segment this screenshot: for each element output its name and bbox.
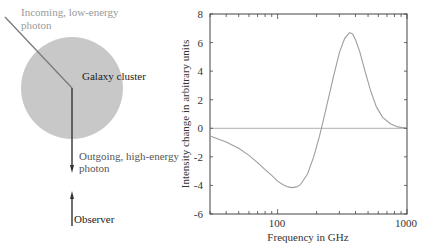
outgoing-arrowhead-icon: [70, 165, 74, 173]
x-tick-1000: 1000: [395, 217, 418, 229]
y-tick-neg6: -6: [194, 208, 204, 220]
sz-curve: [210, 33, 407, 188]
y-axis-title: Intensity change in arbitrary units: [179, 40, 191, 188]
y-tick-neg2: -2: [194, 151, 203, 163]
chart: 8 6 4 2 0 -2 -4 -6 100 1000 Frequency in…: [179, 8, 418, 243]
y-tick-2: 2: [198, 94, 204, 106]
y-tick-neg4: -4: [194, 179, 204, 191]
sz-diagram: Incoming, low-energy photon Galaxy clust…: [5, 6, 180, 226]
x-tick-100: 100: [269, 217, 286, 229]
axis-ticks: [210, 14, 407, 214]
cluster-label: Galaxy cluster: [82, 70, 146, 82]
x-axis-title: Frequency in GHz: [267, 231, 348, 243]
y-tick-6: 6: [198, 37, 204, 49]
incoming-label-2: photon: [21, 19, 52, 31]
outgoing-label-2: photon: [79, 162, 110, 174]
y-tick-0: 0: [198, 122, 204, 134]
figure: Incoming, low-energy photon Galaxy clust…: [0, 0, 423, 247]
y-tick-8: 8: [198, 8, 204, 20]
plot-frame: [210, 14, 407, 214]
incoming-label: Incoming, low-energy: [21, 6, 119, 18]
observer-label: Observer: [74, 213, 115, 225]
observer-arrowhead-icon: [70, 191, 74, 199]
y-tick-4: 4: [198, 65, 204, 77]
outgoing-label: Outgoing, high-energy: [79, 150, 180, 162]
